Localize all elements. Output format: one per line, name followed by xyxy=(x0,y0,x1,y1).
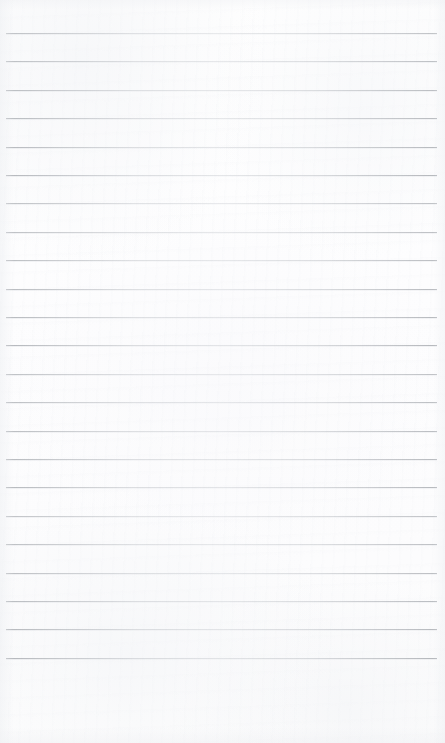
paper-background xyxy=(0,0,445,743)
notepad-page xyxy=(0,0,445,743)
